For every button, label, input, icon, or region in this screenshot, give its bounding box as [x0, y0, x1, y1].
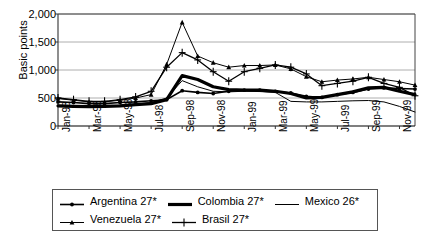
legend-label-mexico: Mexico 26*: [305, 196, 359, 207]
chart-container: Basic points 2,000 1,500 1,000 500 0 Jan…: [0, 0, 429, 241]
x-tick-label: Jan-99: [248, 101, 258, 132]
x-tick-label: Nov-98: [217, 100, 227, 132]
legend-label-argentina: Argentina 27*: [90, 196, 157, 207]
x-tick-label: Mar-99: [279, 100, 289, 132]
legend-key-venezuela-icon: [59, 214, 85, 225]
legend-label-brasil: Brasil 27*: [202, 214, 249, 225]
legend-key-mexico-icon: [274, 196, 300, 207]
legend-key-brasil-icon: [171, 214, 197, 225]
chart-legend: Argentina 27* Colombia 27* Mexico 26* Ve…: [52, 189, 378, 231]
legend-item-mexico[interactable]: Mexico 26*: [274, 196, 359, 207]
x-tick-label: May-98: [124, 99, 134, 132]
legend-label-colombia: Colombia 27*: [198, 196, 264, 207]
legend-key-argentina-icon: [59, 196, 85, 207]
legend-item-argentina[interactable]: Argentina 27*: [59, 196, 157, 207]
x-tick-label: Jan-98: [62, 101, 72, 132]
x-tick-label: Nov-99: [403, 100, 413, 132]
legend-item-venezuela[interactable]: Venezuela 27*: [59, 214, 161, 225]
x-tick-label: Sep-99: [372, 100, 382, 132]
x-tick-label: Mar-98: [93, 100, 103, 132]
legend-row-2: Venezuela 27* Brasil 27*: [59, 211, 259, 228]
legend-row-1: Argentina 27* Colombia 27* Mexico 26*: [59, 193, 369, 210]
legend-key-colombia-icon: [167, 196, 193, 207]
x-tick-label: Jul-98: [155, 105, 165, 132]
legend-label-venezuela: Venezuela 27*: [90, 214, 161, 225]
legend-item-colombia[interactable]: Colombia 27*: [167, 196, 264, 207]
x-tick-label: Sep-98: [186, 100, 196, 132]
x-tick-label: Jul-99: [341, 105, 351, 132]
x-tick-label: May-99: [310, 99, 320, 132]
grid-lines: [58, 14, 415, 98]
legend-item-brasil[interactable]: Brasil 27*: [171, 214, 249, 225]
